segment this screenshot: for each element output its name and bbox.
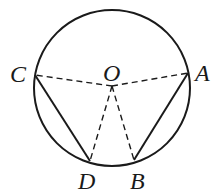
label-b: B bbox=[130, 168, 145, 192]
radius-ob bbox=[112, 86, 134, 160]
label-d: D bbox=[77, 168, 95, 192]
geometry-diagram: C O A D B bbox=[0, 0, 221, 192]
chord-ab bbox=[134, 73, 188, 160]
label-c: C bbox=[10, 61, 27, 87]
radius-oa bbox=[112, 73, 188, 86]
radius-oc bbox=[35, 75, 112, 86]
radius-od bbox=[90, 86, 112, 161]
label-a: A bbox=[193, 60, 210, 86]
label-o: O bbox=[103, 60, 120, 86]
